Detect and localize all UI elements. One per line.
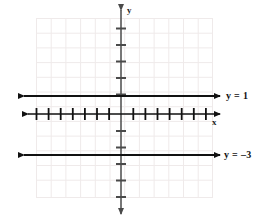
x-axis-label: x (212, 118, 217, 127)
coordinate-plane-figure: y x y = 1 y = –3 (0, 0, 268, 224)
graph-canvas (0, 0, 268, 224)
equation-label-y-equals-1: y = 1 (226, 91, 248, 101)
x-axis (28, 108, 220, 120)
y-axis-label: y (127, 6, 132, 15)
equation-label-y-equals-minus-3: y = –3 (224, 150, 252, 160)
